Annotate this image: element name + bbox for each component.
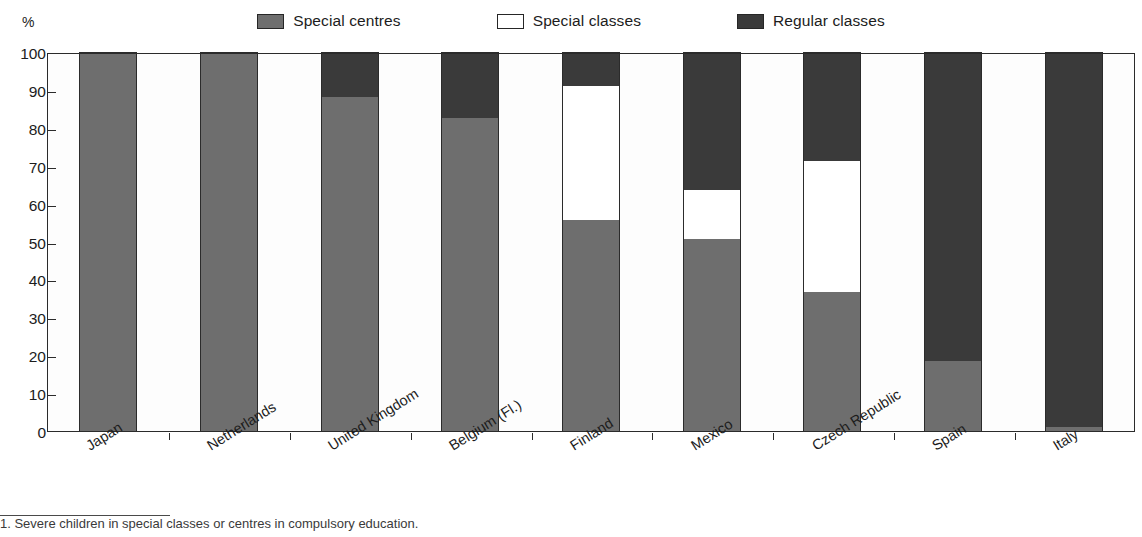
legend-swatch-special-centres-icon <box>257 14 284 29</box>
stacked-bar[interactable] <box>803 54 861 431</box>
bar-segment-special-centres[interactable] <box>441 118 499 431</box>
x-axis-category-labels: JapanNetherlandsUnited KingdomBelgium (F… <box>47 432 1135 512</box>
legend-label-regular-classes: Regular classes <box>773 12 885 30</box>
stacked-bar[interactable] <box>562 54 620 431</box>
stacked-bar[interactable] <box>200 54 258 431</box>
chart-footnote: 1. Severe children in special classes or… <box>0 516 1142 537</box>
y-axis-tick-label: 100 <box>6 45 46 63</box>
legend-label-special-centres: Special centres <box>293 12 400 30</box>
stacked-bar[interactable] <box>441 54 499 431</box>
bar-slot[interactable] <box>651 54 772 431</box>
bar-segment-regular-classes[interactable] <box>683 54 741 190</box>
y-axis-unit-label: % <box>22 14 34 30</box>
y-axis-tick-label: 0 <box>6 424 46 442</box>
y-axis-tick-label: 80 <box>6 121 46 139</box>
bar-segment-special-classes[interactable] <box>562 86 620 220</box>
bar-segment-special-classes[interactable] <box>683 190 741 239</box>
legend-item-special-classes: Special classes <box>497 12 641 30</box>
legend-item-special-centres: Special centres <box>257 12 400 30</box>
chart-plot-area: 0102030405060708090100 <box>47 53 1135 432</box>
bar-segment-regular-classes[interactable] <box>321 54 379 97</box>
bar-segment-special-centres[interactable] <box>321 97 379 431</box>
bar-slot[interactable] <box>772 54 893 431</box>
stacked-bar-group <box>48 54 1134 431</box>
bar-slot[interactable] <box>169 54 290 431</box>
y-axis-tick-label: 50 <box>6 235 46 253</box>
legend-item-regular-classes: Regular classes <box>737 12 885 30</box>
legend-swatch-regular-classes-icon <box>737 14 764 29</box>
bar-slot[interactable] <box>893 54 1014 431</box>
legend-label-special-classes: Special classes <box>533 12 641 30</box>
bar-segment-regular-classes[interactable] <box>562 54 620 86</box>
legend-swatch-special-classes-icon <box>497 14 524 29</box>
y-axis-tick-label: 20 <box>6 348 46 366</box>
y-axis-tick-label: 70 <box>6 159 46 177</box>
bar-segment-regular-classes[interactable] <box>1045 54 1103 427</box>
stacked-bar[interactable] <box>321 54 379 431</box>
bar-segment-regular-classes[interactable] <box>924 54 982 361</box>
chart-legend: Special centres Special classes Regular … <box>0 8 1142 34</box>
y-axis-tick-label: 60 <box>6 197 46 215</box>
stacked-bar[interactable] <box>1045 54 1103 431</box>
stacked-bar[interactable] <box>79 54 137 431</box>
y-axis-tick-label: 10 <box>6 386 46 404</box>
bar-slot[interactable] <box>1013 54 1134 431</box>
bar-segment-special-centres[interactable] <box>683 239 741 431</box>
bar-slot[interactable] <box>289 54 410 431</box>
y-axis-tick-label: 40 <box>6 272 46 290</box>
stacked-bar[interactable] <box>683 54 741 431</box>
bar-segment-regular-classes[interactable] <box>441 54 499 118</box>
bar-segment-special-centres[interactable] <box>924 361 982 431</box>
bar-segment-special-centres[interactable] <box>200 54 258 431</box>
bar-segment-special-classes[interactable] <box>803 161 861 291</box>
bar-slot[interactable] <box>531 54 652 431</box>
bar-slot[interactable] <box>48 54 169 431</box>
bar-segment-special-centres[interactable] <box>562 220 620 431</box>
stacked-bar[interactable] <box>924 54 982 431</box>
bar-segment-regular-classes[interactable] <box>803 54 861 161</box>
bar-segment-special-centres[interactable] <box>803 292 861 431</box>
bar-slot[interactable] <box>410 54 531 431</box>
y-axis-tick-label: 30 <box>6 310 46 328</box>
bar-segment-special-centres[interactable] <box>79 54 137 431</box>
y-axis-tick-label: 90 <box>6 83 46 101</box>
